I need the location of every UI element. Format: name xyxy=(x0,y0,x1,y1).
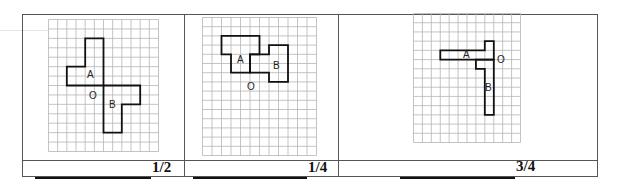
answer-underline-1[interactable] xyxy=(35,177,151,179)
label-o: O xyxy=(247,81,255,92)
label-o: O xyxy=(497,54,505,65)
figure-1: A O B xyxy=(48,19,159,152)
label-o: O xyxy=(89,90,97,101)
figure-2: A O B xyxy=(202,17,317,156)
answer-underline-3[interactable] xyxy=(400,177,515,179)
figure-3: A O B xyxy=(413,13,521,143)
grid-lines xyxy=(414,14,521,143)
answer-3: 3/4 xyxy=(516,158,535,175)
column-divider-2 xyxy=(338,15,339,176)
label-b: B xyxy=(273,60,280,71)
grid-figure-2: A O B xyxy=(202,17,317,156)
grid-figure-3: A O B xyxy=(413,13,521,143)
answer-1: 1/2 xyxy=(152,159,171,176)
grid-figure-1: A O B xyxy=(48,19,159,152)
label-a: A xyxy=(237,54,244,65)
answer-underline-2[interactable] xyxy=(193,177,307,179)
label-a: A xyxy=(463,49,470,60)
answer-2: 1/4 xyxy=(308,159,327,176)
column-divider-1 xyxy=(184,15,185,176)
label-b: B xyxy=(485,82,492,93)
label-b: B xyxy=(109,99,116,110)
label-a: A xyxy=(87,69,94,80)
